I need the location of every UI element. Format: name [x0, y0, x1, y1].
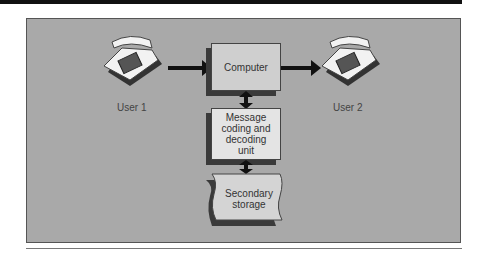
top-rule [0, 0, 462, 4]
arrow-computer-to-user2 [281, 66, 313, 70]
bottom-rule [26, 248, 462, 249]
storage-label: Secondary storage [214, 188, 284, 210]
message-coding-node: Message coding and decoding unit [211, 108, 281, 160]
telephone-icon-user1 [100, 34, 170, 92]
storage-label-line1: Secondary [214, 188, 284, 199]
arrow-user1-to-computer [168, 66, 204, 70]
telephone-icon-user2 [318, 34, 388, 92]
message-label-line1: Message [226, 112, 267, 123]
message-label-line4: unit [238, 145, 254, 156]
user1-label: User 1 [117, 102, 146, 113]
user2-label: User 2 [333, 102, 362, 113]
computer-node: Computer [211, 43, 281, 91]
message-label-line3: decoding [226, 134, 267, 145]
message-label-line2: coding and [222, 123, 271, 134]
double-arrow-icon [238, 91, 254, 109]
storage-label-line2: storage [214, 199, 284, 210]
computer-label: Computer [224, 62, 268, 73]
